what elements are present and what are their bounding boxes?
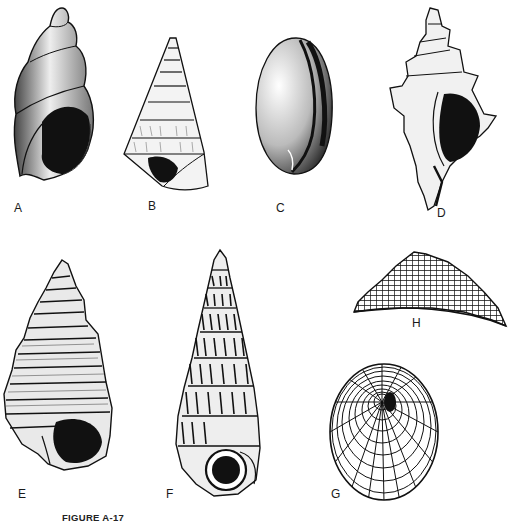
figure-caption: FIGURE A-17 bbox=[62, 512, 124, 523]
spiny-shell-icon bbox=[384, 6, 494, 212]
panel-label-h: H bbox=[412, 317, 421, 329]
panel-label-a: A bbox=[14, 202, 22, 214]
shell-a bbox=[4, 4, 100, 184]
shell-c bbox=[252, 36, 338, 176]
shell-b bbox=[120, 36, 212, 194]
shell-h bbox=[352, 250, 508, 332]
ribbed-spire-shell-icon bbox=[2, 258, 114, 474]
panel-label-d: D bbox=[437, 207, 446, 219]
snail-shell-icon bbox=[4, 4, 100, 184]
shell-g bbox=[328, 362, 440, 502]
limpet-top-icon bbox=[328, 362, 440, 502]
panel-label-f: F bbox=[166, 488, 173, 500]
shell-f bbox=[174, 248, 260, 498]
shell-d bbox=[384, 6, 494, 212]
ovate-shell-icon bbox=[252, 36, 338, 176]
panel-label-c: C bbox=[276, 202, 285, 214]
panel-label-e: E bbox=[18, 488, 26, 500]
limpet-side-icon bbox=[352, 250, 508, 332]
panel-label-b: B bbox=[148, 200, 156, 212]
panel-label-g: G bbox=[331, 488, 340, 500]
cone-shell-icon bbox=[120, 36, 212, 194]
shell-figure: A B bbox=[0, 0, 508, 532]
tall-spire-shell-icon bbox=[174, 248, 260, 498]
shell-e bbox=[2, 258, 114, 474]
